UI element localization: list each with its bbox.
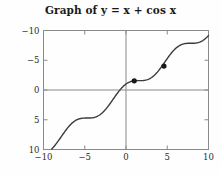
data-curve: [52, 35, 209, 148]
plot-area: −10−505101050−5−10: [0, 0, 221, 175]
y-tick-label: 0: [34, 85, 39, 95]
data-point-marker: [132, 78, 137, 83]
y-tick-label: 5: [34, 115, 39, 125]
data-point-marker: [161, 63, 166, 68]
y-tick-label: −10: [22, 26, 40, 36]
x-tick-label: 0: [123, 152, 128, 162]
chart-container: Graph of y = x + cos x −10−505101050−5−1…: [0, 0, 221, 175]
y-tick-label: 10: [29, 145, 40, 155]
x-tick-label: 10: [203, 152, 214, 162]
y-tick-label: −5: [27, 55, 40, 65]
x-tick-label: −5: [78, 152, 91, 162]
x-tick-label: 5: [165, 152, 170, 162]
